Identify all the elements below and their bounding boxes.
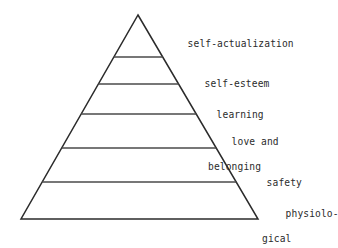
tier-label-line-1: physiolo- xyxy=(286,208,338,219)
tier-label-line-1: safety xyxy=(267,177,302,188)
pyramid-diagram: self-actualization self-esteem learning … xyxy=(0,0,338,236)
tier-label-line-1: self-actualization xyxy=(188,38,294,49)
tier-label-self-actualization: self-actualization xyxy=(164,25,294,63)
tier-label-line-1: learning xyxy=(217,109,264,120)
tier-label-line-1: self-esteem xyxy=(205,78,270,89)
tier-label-line-2: gical xyxy=(262,233,338,246)
tier-label-physiological: physiolo- gical xyxy=(262,195,338,248)
tier-label-line-1: love and xyxy=(232,136,279,147)
